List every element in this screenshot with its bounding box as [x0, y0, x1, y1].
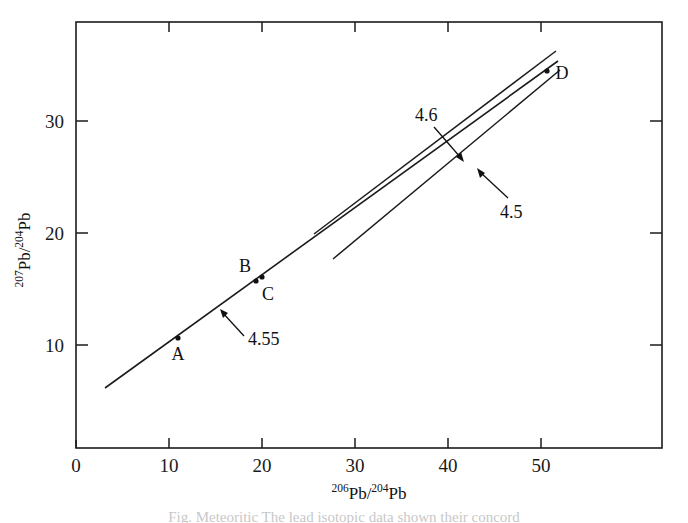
x-axis-top-ticks — [169, 22, 541, 32]
y-tick-label-30: 30 — [45, 111, 64, 132]
y-axis-title-base: Pb/ — [15, 247, 34, 270]
x-tick-label-50: 50 — [532, 455, 551, 476]
figure-root: 0 10 20 30 40 50 30 20 10 206Pb/204Pb 20… — [0, 0, 688, 523]
y-axis-title: 207Pb/204Pb — [13, 212, 34, 287]
data-point-c: C — [259, 274, 274, 304]
pb-isochron-chart: 0 10 20 30 40 50 30 20 10 206Pb/204Pb 20… — [0, 0, 688, 523]
data-point-a-label: A — [172, 344, 185, 364]
isochron-line-45 — [333, 70, 560, 259]
x-tick-label-20: 20 — [253, 455, 272, 476]
data-point-b-label: B — [239, 256, 251, 276]
x-axis-title: 206Pb/204Pb — [331, 482, 406, 503]
x-axis-title-sup2: 204 — [371, 482, 389, 494]
annotation-455: 4.55 — [220, 309, 280, 349]
y-axis-ticks — [76, 121, 88, 345]
x-axis-title-base2: Pb — [389, 484, 407, 503]
data-point-c-label: C — [262, 284, 274, 304]
x-axis-title-base: Pb/ — [349, 484, 372, 503]
x-tick-label-40: 40 — [439, 455, 458, 476]
data-point-d-label: D — [556, 63, 569, 83]
y-axis-title-sup2: 204 — [13, 230, 25, 248]
x-axis-ticks — [76, 438, 541, 448]
svg-text:207Pb/204Pb: 207Pb/204Pb — [13, 212, 34, 287]
y-axis-title-base2: Pb — [15, 212, 34, 230]
annotation-46-label: 4.6 — [415, 105, 438, 125]
y-axis-title-sup: 207 — [13, 270, 25, 288]
annotation-45: 4.5 — [477, 168, 523, 222]
data-point-a: A — [172, 335, 185, 364]
x-tick-label-30: 30 — [346, 455, 365, 476]
y-tick-label-20: 20 — [45, 223, 64, 244]
data-point-b: B — [239, 256, 259, 284]
x-tick-label-10: 10 — [160, 455, 179, 476]
y-tick-label-10: 10 — [45, 335, 64, 356]
figure-caption: Fig. Meteoritic The lead isotopic data s… — [0, 509, 688, 523]
x-tick-label-0: 0 — [71, 455, 81, 476]
isochron-line-455 — [105, 61, 558, 388]
y-axis-right-ticks — [650, 121, 662, 345]
plot-frame — [76, 22, 662, 448]
x-axis-title-sup: 206 — [331, 482, 349, 494]
svg-text:206Pb/204Pb: 206Pb/204Pb — [331, 482, 406, 503]
annotation-455-label: 4.55 — [248, 329, 280, 349]
annotation-45-label: 4.5 — [500, 202, 523, 222]
